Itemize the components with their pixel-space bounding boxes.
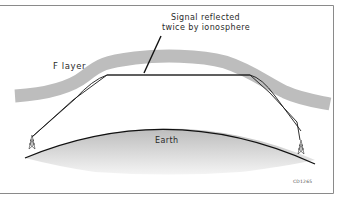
f-layer-label: F layer: [53, 61, 86, 71]
earth-label: Earth: [155, 136, 178, 145]
tower-icon: [298, 140, 304, 154]
skywave-diagram: Signal reflected twice by ionosphere F l…: [0, 0, 340, 201]
callout-line-1: Signal reflected: [171, 13, 240, 22]
callout-line-2: twice by ionosphere: [162, 23, 250, 32]
figure-code: CD1265: [293, 179, 312, 184]
tower-icon: [29, 135, 35, 149]
